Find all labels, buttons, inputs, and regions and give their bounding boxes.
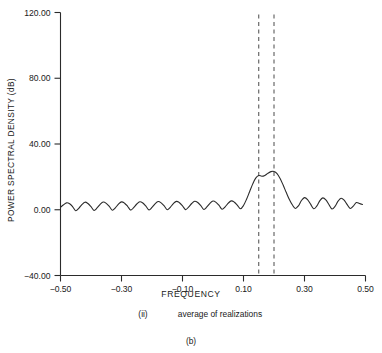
x-tick-label: 0.50: [357, 284, 374, 294]
x-tick-label: −0.30: [111, 284, 133, 294]
y-tick-labels: −40.000.0040.0080.00120.00: [24, 8, 51, 281]
y-tick-label: 80.00: [29, 73, 51, 83]
subfigure-caption: average of realizations: [178, 309, 262, 319]
x-tick-label: 0.30: [296, 284, 313, 294]
psd-chart: −40.000.0040.0080.00120.00 −0.50−0.30−0.…: [0, 0, 382, 353]
y-tick-label: −40.00: [24, 271, 51, 281]
figure-panel: −40.000.0040.0080.00120.00 −0.50−0.30−0.…: [0, 0, 382, 353]
y-tick-marks: [55, 13, 61, 276]
y-tick-label: 120.00: [24, 8, 51, 18]
x-tick-marks: [61, 276, 366, 282]
y-tick-label: 40.00: [29, 139, 51, 149]
marker-lines-group: [259, 15, 274, 276]
x-axis-title: FREQUENCY: [161, 289, 220, 299]
y-tick-label: 0.00: [34, 205, 51, 215]
x-tick-label: −0.50: [50, 284, 72, 294]
figure-label: (b): [186, 336, 196, 346]
y-axis-title: POWER SPECTRAL DENSITY (dB): [6, 78, 16, 222]
y-axis-group: −40.000.0040.0080.00120.00: [24, 8, 61, 281]
subfigure-label: (ii): [138, 309, 148, 319]
spectrum-curve: [61, 171, 363, 210]
x-tick-label: 0.10: [235, 284, 252, 294]
